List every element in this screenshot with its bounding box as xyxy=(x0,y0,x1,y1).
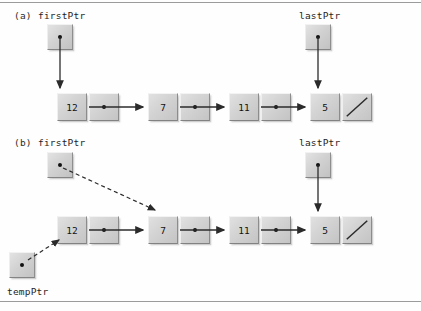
node-data-cell: 11 xyxy=(229,93,259,121)
node-data-cell: 7 xyxy=(148,216,178,244)
bottom-divider xyxy=(0,301,421,302)
part-a-node-12: 12 xyxy=(57,93,119,121)
link-dot-icon xyxy=(274,105,278,109)
null-slash-icon xyxy=(343,217,371,243)
part-b-node-5: 5 xyxy=(310,216,372,244)
node-link-cell xyxy=(261,216,291,244)
part-a-label: (a) xyxy=(14,10,32,21)
node-null-cell xyxy=(342,216,372,244)
part-b-lastptr-box xyxy=(305,152,331,178)
link-dot-icon xyxy=(102,228,106,232)
linked-list-figure: (a) firstPtr lastPtr 12 7 11 xyxy=(0,0,421,311)
part-b-node-12: 12 xyxy=(57,216,119,244)
part-a-firstptr-box xyxy=(47,24,73,50)
node-null-cell xyxy=(342,93,372,121)
node-value: 5 xyxy=(322,225,328,236)
top-divider xyxy=(0,2,421,3)
part-b-firstptr-label: firstPtr xyxy=(38,137,85,148)
part-a-node-11: 11 xyxy=(229,93,291,121)
pointer-dot-icon xyxy=(20,263,24,267)
part-b-tempptr-box xyxy=(9,252,35,278)
pointer-dot-icon xyxy=(58,35,62,39)
node-data-cell: 11 xyxy=(229,216,259,244)
pointer-dot-icon xyxy=(316,163,320,167)
part-a-firstptr-label: firstPtr xyxy=(38,10,85,21)
node-value: 11 xyxy=(238,102,249,113)
part-a-lastptr-box xyxy=(305,24,331,50)
node-value: 7 xyxy=(160,225,166,236)
link-dot-icon xyxy=(193,105,197,109)
pointer-dot-icon xyxy=(58,163,62,167)
node-data-cell: 5 xyxy=(310,216,340,244)
node-data-cell: 12 xyxy=(57,216,87,244)
node-link-cell xyxy=(180,216,210,244)
node-data-cell: 7 xyxy=(148,93,178,121)
part-a-lastptr-label: lastPtr xyxy=(299,10,340,21)
node-value: 12 xyxy=(66,225,77,236)
node-data-cell: 12 xyxy=(57,93,87,121)
node-link-cell xyxy=(261,93,291,121)
part-b-label: (b) xyxy=(14,137,32,148)
link-dot-icon xyxy=(102,105,106,109)
null-slash-icon xyxy=(343,94,371,120)
node-data-cell: 5 xyxy=(310,93,340,121)
part-a-node-5: 5 xyxy=(310,93,372,121)
node-link-cell xyxy=(180,93,210,121)
arrow-b-firstptr-to-node7-dashed xyxy=(63,168,155,210)
part-b-node-7: 7 xyxy=(148,216,210,244)
part-b-node-11: 11 xyxy=(229,216,291,244)
link-dot-icon xyxy=(193,228,197,232)
node-value: 12 xyxy=(66,102,77,113)
node-value: 11 xyxy=(238,225,249,236)
node-value: 5 xyxy=(322,102,328,113)
part-b-tempptr-label: tempPtr xyxy=(7,286,48,297)
part-a-node-7: 7 xyxy=(148,93,210,121)
node-value: 7 xyxy=(160,102,166,113)
node-link-cell xyxy=(89,93,119,121)
pointer-dot-icon xyxy=(316,35,320,39)
link-dot-icon xyxy=(274,228,278,232)
part-b-firstptr-box xyxy=(47,152,73,178)
part-b-lastptr-label: lastPtr xyxy=(299,137,340,148)
node-link-cell xyxy=(89,216,119,244)
